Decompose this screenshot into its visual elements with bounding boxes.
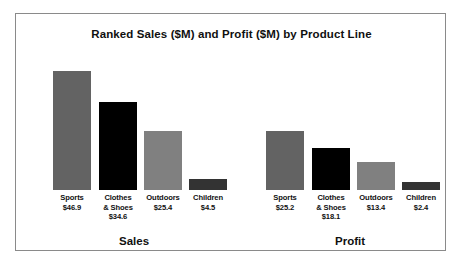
- bar-value-label: $4.5: [179, 203, 237, 213]
- bar-sales-sports: [53, 71, 91, 190]
- bar-label: Children$4.5: [179, 193, 237, 212]
- bar-profit-clothes-shoes: [312, 148, 350, 190]
- bar-profit-outdoors: [357, 162, 395, 190]
- bar-sales-children: [189, 179, 227, 190]
- group-label-sales: Sales: [74, 235, 194, 247]
- bar-label: Children$2.4: [392, 193, 446, 212]
- bar-sales-outdoors: [144, 131, 182, 190]
- bar-profit-children: [402, 182, 440, 190]
- bar-profit-sports: [266, 131, 304, 190]
- chart-frame: Ranked Sales ($M) and Profit ($M) by Pro…: [15, 13, 446, 251]
- bar-value-label: $2.4: [392, 203, 446, 213]
- bar-category-label: Children: [179, 193, 237, 203]
- plot-area: Sports$46.9Clothes & Shoes$34.6Outdoors$…: [16, 14, 446, 251]
- bar-value-label: $34.6: [89, 212, 147, 222]
- group-label-profit: Profit: [290, 235, 410, 247]
- bar-sales-clothes-shoes: [99, 102, 137, 190]
- bar-category-label: Children: [392, 193, 446, 203]
- bar-value-label: $18.1: [302, 212, 360, 222]
